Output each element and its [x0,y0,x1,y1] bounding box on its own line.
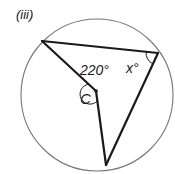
radius-to-bottom [96,91,106,165]
center-point [94,89,98,93]
chord-top [42,41,158,53]
x-angle-label: x° [125,60,139,76]
part-label: (iii) [16,7,33,22]
center-label: C [80,90,91,107]
reflex-angle-label: 220° [79,62,109,78]
inscribed-angle-arc [146,52,153,64]
circle-theorem-diagram: (iii) 220° x° C [0,0,175,174]
